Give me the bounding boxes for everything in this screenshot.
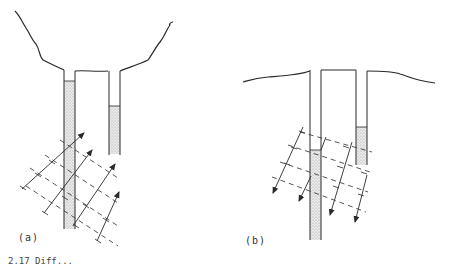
panel-label-a: (a) — [18, 232, 39, 243]
figure-caption: 2.17 Diff... — [8, 256, 73, 266]
ray-arrow — [355, 175, 367, 222]
ray-arrow — [321, 137, 326, 150]
right-tube-a — [109, 71, 120, 155]
surface-line-a — [15, 11, 173, 71]
tube-fill — [109, 106, 120, 154]
panel-label-b: (b) — [245, 235, 266, 246]
ray-arrow — [97, 192, 119, 241]
ray-arrow — [299, 176, 311, 201]
tube-fill — [64, 81, 75, 229]
panel-a — [15, 11, 173, 246]
tube-fill — [310, 150, 321, 240]
ray-arrow — [73, 164, 115, 226]
tube-fill — [356, 127, 367, 165]
wavefront — [280, 162, 368, 192]
ray-arrow — [330, 142, 352, 215]
panel-b — [243, 70, 435, 240]
right-tube-b — [356, 70, 367, 165]
left-tube-b — [310, 70, 321, 240]
surface-line-b — [243, 70, 435, 83]
wavefront — [45, 155, 118, 203]
ray-arrow — [273, 127, 303, 193]
